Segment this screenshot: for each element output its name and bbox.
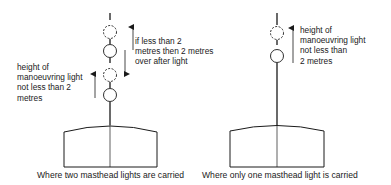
label-line: manoeuvring light — [17, 72, 83, 82]
label-line: not less than 2 — [17, 82, 83, 92]
label-line: height of — [17, 62, 83, 72]
masthead-light-icon — [104, 89, 117, 102]
label-line: metres then 2 metres — [135, 46, 213, 56]
label-line: if less than 2 — [135, 36, 213, 46]
manoeuvring-height-label-left: height of manoeuvring light not less tha… — [17, 62, 83, 103]
masthead-light-icon — [104, 45, 117, 58]
caption-right: Where only one masthead light is carried — [202, 170, 358, 180]
label-line: not less than — [300, 45, 366, 55]
label-line: 2 metres — [300, 56, 366, 66]
label-line: height of — [300, 25, 366, 35]
manoeuvring-height-label-right: height of manoeuvring light not less tha… — [300, 25, 366, 66]
after-light-label: if less than 2 metres then 2 metres over… — [135, 36, 213, 67]
label-line: manoeuvring light — [300, 35, 366, 45]
masthead-light-icon — [271, 50, 284, 63]
caption-left: Where two masthead lights are carried — [37, 170, 184, 180]
dashed-light-icon — [104, 69, 117, 82]
dashed-light-icon — [271, 27, 284, 40]
label-line: over after light — [135, 56, 213, 66]
dashed-light-icon — [104, 26, 117, 39]
label-line: metres — [17, 93, 83, 103]
